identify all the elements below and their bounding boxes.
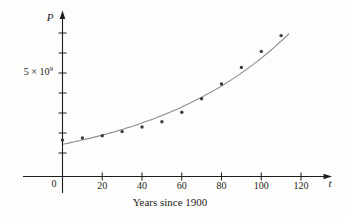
y-tick-label-5e9: 5 × 109 xyxy=(24,67,53,77)
data-point-1910 xyxy=(81,136,84,139)
data-point-2000 xyxy=(260,50,263,53)
data-point-1960 xyxy=(180,111,183,114)
origin-tick-label: 0 xyxy=(52,179,57,189)
y-tick-label-exponent: 9 xyxy=(50,65,54,73)
data-point-1930 xyxy=(120,130,123,133)
y-axis-symbol: P xyxy=(47,12,54,23)
x-tick-label-80: 80 xyxy=(217,181,227,191)
y-axis-arrowhead xyxy=(60,11,66,20)
x-tick-label-20: 20 xyxy=(97,181,107,191)
y-tick-label-mantissa: 5 × 10 xyxy=(24,66,50,77)
x-axis-symbol: t xyxy=(328,178,331,189)
data-point-1940 xyxy=(140,125,143,128)
data-point-1980 xyxy=(220,82,223,85)
data-point-1970 xyxy=(200,97,203,100)
x-tick-label-40: 40 xyxy=(137,181,147,191)
model-curve xyxy=(63,34,290,145)
data-point-1990 xyxy=(240,66,243,69)
data-point-1920 xyxy=(101,134,104,137)
data-point-1950 xyxy=(160,120,163,123)
data-point-1900 xyxy=(61,138,64,141)
x-tick-label-100: 100 xyxy=(254,181,269,191)
x-tick-label-120: 120 xyxy=(294,181,309,191)
x-tick-label-60: 60 xyxy=(177,181,187,191)
data-point-2010 xyxy=(279,34,282,37)
population-growth-figure: P t 0 5 × 109 Years since 1900 204060801… xyxy=(0,0,346,217)
x-axis-title: Years since 1900 xyxy=(133,197,208,208)
